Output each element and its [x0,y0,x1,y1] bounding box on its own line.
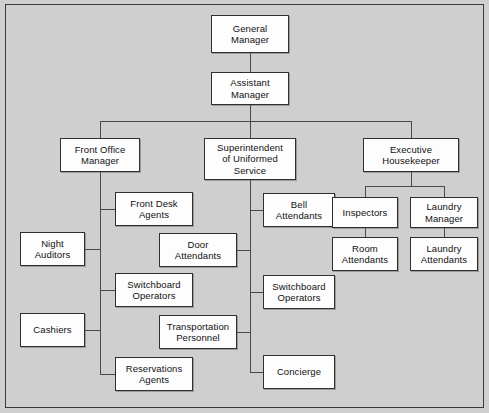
connector-level2-bus [100,121,411,122]
node-concierge[interactable]: Concierge [263,355,335,389]
node-laundry-attendants-label: Laundry Attendants [419,243,469,266]
node-general-manager-label: General Manager [229,23,271,46]
org-chart: General Manager Assistant Manager Front … [0,0,489,413]
node-reservations-agents[interactable]: Reservations Agents [115,357,193,391]
connector-bus-to-superintendent [250,121,251,138]
connector-housekeeper-bus [365,186,445,187]
node-general-manager[interactable]: General Manager [211,15,289,53]
node-bell-attendants-label: Bell Attendants [274,199,324,222]
node-cashiers[interactable]: Cashiers [20,313,85,347]
node-reservations-agents-label: Reservations Agents [124,363,185,386]
node-switchboard-operators-front-office[interactable]: Switchboard Operators [115,273,193,307]
connector-bus-to-inspectors [365,186,366,197]
node-laundry-attendants[interactable]: Laundry Attendants [410,237,478,271]
node-executive-housekeeper[interactable]: Executive Housekeeper [363,138,459,172]
connector-bus-to-laundry-manager [444,186,445,197]
node-transportation-personnel-label: Transportation Personnel [165,321,231,344]
connector-stub-door-attendants [237,250,250,251]
connector-superintendent-spine [250,180,251,372]
connector-stub-bell-attendants [250,210,263,211]
node-front-office-manager-label: Front Office Manager [73,144,128,167]
node-switchboard-operators-front-office-label: Switchboard Operators [125,279,182,302]
node-assistant-manager-label: Assistant Manager [228,77,271,100]
connector-stub-cashiers [85,330,100,331]
connector-gm-to-assistant [250,53,251,72]
node-front-desk-agents-label: Front Desk Agents [128,198,179,221]
node-night-auditors[interactable]: Night Auditors [20,232,85,266]
node-room-attendants-label: Room Attendants [340,243,390,266]
node-bell-attendants[interactable]: Bell Attendants [263,193,335,227]
node-cashiers-label: Cashiers [31,324,73,336]
node-laundry-manager[interactable]: Laundry Manager [410,197,478,228]
node-front-desk-agents[interactable]: Front Desk Agents [115,192,193,226]
connector-laundry-manager-to-attendants [444,228,445,237]
connector-front-office-spine [100,172,101,374]
connector-stub-transportation-personnel [237,332,250,333]
connector-bus-to-housekeeper [411,121,412,138]
node-door-attendants-label: Door Attendants [173,239,223,262]
node-executive-housekeeper-label: Executive Housekeeper [380,144,442,167]
node-night-auditors-label: Night Auditors [33,238,73,261]
connector-assistant-to-bus [250,105,251,121]
connector-stub-switchboard-front [100,290,115,291]
connector-stub-night-auditors [85,249,100,250]
connector-stub-switchboard-uniformed [250,292,263,293]
node-switchboard-operators-uniformed[interactable]: Switchboard Operators [263,275,335,309]
node-inspectors-label: Inspectors [341,207,390,219]
connector-housekeeper-drop [411,172,412,186]
node-assistant-manager[interactable]: Assistant Manager [211,72,289,105]
node-concierge-label: Concierge [275,366,323,378]
connector-stub-concierge [250,372,263,373]
node-laundry-manager-label: Laundry Manager [423,201,465,224]
node-room-attendants[interactable]: Room Attendants [332,237,398,271]
connector-stub-front-desk-agents [100,209,115,210]
connector-stub-reservations-agents [100,374,115,375]
node-superintendent-uniformed-service-label: Superintendent of Uniformed Service [215,142,285,177]
node-door-attendants[interactable]: Door Attendants [159,233,237,267]
connector-inspectors-to-room-attendants [365,228,366,237]
node-inspectors[interactable]: Inspectors [332,197,398,228]
connector-bus-to-front-office [100,121,101,138]
node-superintendent-uniformed-service[interactable]: Superintendent of Uniformed Service [204,138,296,180]
node-front-office-manager[interactable]: Front Office Manager [60,138,140,172]
node-transportation-personnel[interactable]: Transportation Personnel [159,315,237,349]
node-switchboard-operators-uniformed-label: Switchboard Operators [270,281,327,304]
